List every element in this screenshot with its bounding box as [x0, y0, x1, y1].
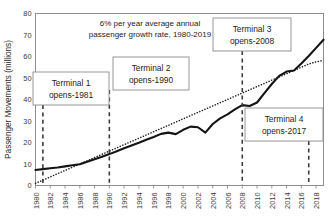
callout-label-terminal-3-line1: Terminal 3 [233, 24, 272, 34]
callout-box-terminal-3 [213, 18, 291, 51]
y-tick-label-20: 20 [23, 138, 31, 147]
chart-canvas: Passenger Movements (millions)0102030405… [0, 0, 336, 216]
x-tick-label-1990: 1990 [105, 193, 114, 209]
x-tick-label-2018: 2018 [312, 193, 321, 209]
y-tick-label-70: 70 [23, 31, 31, 40]
x-tick-label-2014: 2014 [283, 193, 292, 209]
x-tick-label-2012: 2012 [268, 193, 277, 209]
y-tick-label-10: 10 [23, 160, 31, 169]
x-tick-label-2008: 2008 [238, 193, 247, 209]
x-tick-label-2002: 2002 [194, 193, 203, 209]
x-tick-label-1986: 1986 [76, 193, 85, 209]
y-tick-label-30: 30 [23, 117, 31, 126]
growth-rate-note-line2: passenger growth rate, 1980-2019 [89, 30, 212, 39]
callout-box-terminal-2 [113, 57, 189, 90]
callout-label-terminal-3-line2: opens-2008 [230, 36, 275, 46]
callout-box-terminal-1 [33, 72, 109, 105]
callout-label-terminal-1-line2: opens-1981 [49, 90, 94, 100]
y-tick-label-80: 80 [23, 9, 31, 18]
y-axis-title: Passenger Movements (millions) [4, 40, 13, 159]
x-tick-label-1980: 1980 [32, 193, 41, 209]
x-tick-label-1988: 1988 [91, 193, 100, 209]
x-tick-label-2006: 2006 [224, 193, 233, 209]
x-tick-label-2016: 2016 [297, 193, 306, 209]
x-tick-label-1992: 1992 [120, 193, 129, 209]
callout-label-terminal-4-line2: opens-2017 [262, 126, 307, 136]
callout-label-terminal-4-line1: Terminal 4 [265, 114, 304, 124]
x-tick-label-1982: 1982 [46, 193, 55, 209]
callout-box-terminal-4 [245, 108, 323, 141]
callout-label-terminal-2-line1: Terminal 2 [132, 63, 171, 73]
y-tick-label-60: 60 [23, 52, 31, 61]
x-tick-label-1998: 1998 [164, 193, 173, 209]
y-tick-label-0: 0 [27, 181, 31, 190]
callout-label-terminal-2-line2: opens-1990 [129, 75, 174, 85]
growth-rate-note-line1: 6% per year average annual [100, 19, 201, 28]
x-tick-label-2010: 2010 [253, 193, 262, 209]
callout-label-terminal-1-line1: Terminal 1 [52, 78, 91, 88]
x-tick-label-1984: 1984 [61, 193, 70, 209]
x-tick-label-2004: 2004 [209, 193, 218, 209]
x-tick-label-1994: 1994 [135, 193, 144, 209]
x-tick-label-1996: 1996 [150, 193, 159, 209]
passenger-movements-chart: Passenger Movements (millions)0102030405… [0, 0, 336, 216]
x-tick-label-2000: 2000 [179, 193, 188, 209]
y-tick-label-40: 40 [23, 95, 31, 104]
y-tick-label-50: 50 [23, 74, 31, 83]
